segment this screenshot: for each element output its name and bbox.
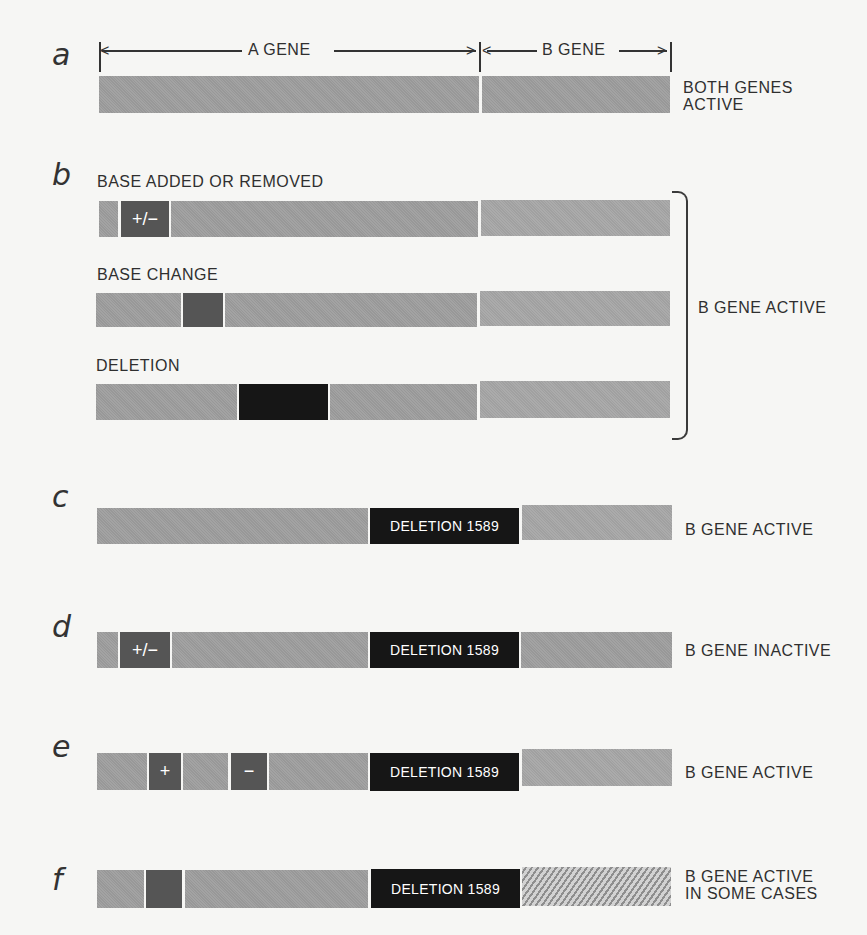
status-label-e: B GENE ACTIVE bbox=[685, 765, 813, 782]
row-letter-c: c bbox=[52, 482, 69, 512]
span-tick-right bbox=[670, 42, 672, 72]
arrowhead-left-icon: < bbox=[100, 42, 109, 60]
status-line: B GENE ACTIVE bbox=[685, 869, 818, 886]
a-gene-segment bbox=[183, 753, 228, 790]
deletion-1589-block: DELETION 1589 bbox=[371, 869, 520, 908]
mutation-label-base-added: BASE ADDED OR REMOVED bbox=[97, 174, 324, 191]
b-gene-label: B GENE bbox=[542, 42, 605, 59]
span-tick-middle bbox=[479, 42, 481, 72]
a-gene-segment bbox=[96, 384, 237, 420]
a-gene-segment bbox=[97, 753, 147, 790]
arrowhead-right-icon: > bbox=[657, 42, 666, 60]
a-gene-segment bbox=[269, 753, 368, 790]
mutation-label-base-change: BASE CHANGE bbox=[97, 267, 218, 284]
status-label-c: B GENE ACTIVE bbox=[685, 522, 813, 539]
b-gene-segment bbox=[522, 505, 672, 540]
deletion-1589-block: DELETION 1589 bbox=[370, 753, 519, 791]
base-change-marker bbox=[183, 293, 223, 327]
status-label-f: B GENE ACTIVE IN SOME CASES bbox=[685, 869, 818, 903]
a-gene-segment bbox=[172, 632, 368, 668]
deletion-1589-block: DELETION 1589 bbox=[370, 632, 519, 668]
deletion-block bbox=[239, 384, 328, 420]
b-gene-segment-partial bbox=[522, 867, 671, 906]
arrow-left-icon bbox=[102, 50, 242, 52]
b-gene-segment bbox=[481, 200, 670, 236]
removal-marker: − bbox=[231, 753, 267, 790]
a-gene-segment bbox=[96, 293, 181, 327]
status-label-b: B GENE ACTIVE bbox=[698, 300, 826, 317]
mutation-label-deletion: DELETION bbox=[96, 358, 180, 375]
arrow-left-icon bbox=[487, 50, 537, 52]
b-gene-segment bbox=[482, 76, 670, 113]
b-gene-segment bbox=[521, 632, 672, 668]
row-letter-a: a bbox=[52, 40, 70, 70]
row-letter-e: e bbox=[52, 732, 70, 762]
status-label-d: B GENE INACTIVE bbox=[685, 643, 831, 660]
arrow-right-icon bbox=[334, 50, 476, 52]
b-gene-segment bbox=[480, 291, 670, 326]
a-gene-segment bbox=[97, 508, 368, 544]
a-gene-label: A GENE bbox=[248, 42, 311, 59]
a-gene-segment bbox=[171, 201, 478, 237]
a-gene-segment bbox=[97, 632, 118, 668]
base-change-marker bbox=[146, 870, 182, 908]
frameshift-marker: +/− bbox=[120, 632, 170, 668]
a-gene-segment bbox=[97, 870, 144, 908]
b-gene-segment bbox=[480, 381, 670, 418]
status-line: IN SOME CASES bbox=[685, 886, 818, 903]
a-gene-segment bbox=[225, 293, 477, 327]
mutation-marker: +/− bbox=[121, 201, 169, 237]
status-line: ACTIVE bbox=[683, 97, 793, 114]
row-letter-d: d bbox=[52, 612, 71, 642]
row-letter-b: b bbox=[52, 160, 71, 190]
status-line: BOTH GENES bbox=[683, 80, 793, 97]
row-letter-f: f bbox=[52, 865, 63, 895]
a-gene-segment bbox=[99, 76, 479, 113]
a-gene-segment bbox=[99, 201, 118, 237]
insertion-marker: + bbox=[149, 753, 181, 790]
status-label-a: BOTH GENES ACTIVE bbox=[683, 80, 793, 114]
a-gene-segment bbox=[185, 870, 368, 908]
deletion-1589-block: DELETION 1589 bbox=[370, 508, 519, 544]
b-gene-segment bbox=[522, 749, 672, 786]
a-gene-segment bbox=[330, 384, 477, 420]
grouping-bracket bbox=[672, 191, 688, 440]
arrowhead-right-icon: > bbox=[466, 42, 475, 60]
